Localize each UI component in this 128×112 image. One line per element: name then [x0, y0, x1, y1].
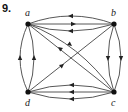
vertex-d [25, 89, 30, 94]
vertex-b [111, 21, 116, 26]
arrow-icon [59, 64, 64, 69]
graph-canvas [0, 0, 128, 112]
arrow-icon [68, 14, 73, 18]
arrow-icon [119, 56, 123, 61]
directed-multigraph: 9. [0, 0, 128, 112]
problem-number: 9. [2, 2, 11, 14]
arrow-icon [69, 97, 74, 101]
vertex-label-d: d [25, 97, 30, 108]
vertex-a [25, 21, 30, 26]
arrow-icon [69, 83, 74, 87]
vertex-label-c: c [111, 97, 115, 108]
arrow-icon [18, 55, 22, 60]
arrow-icon [32, 55, 36, 60]
arrow-icon [106, 56, 110, 61]
arrow-icon [69, 90, 74, 94]
edge-c-d-top [28, 85, 114, 92]
arrow-icon [71, 22, 76, 26]
vertex-label-a: a [25, 7, 30, 18]
vertex-label-b: b [111, 7, 116, 18]
vertex-c [111, 89, 116, 94]
arrow-icon [68, 29, 73, 33]
edge-c-d-low [28, 92, 114, 99]
